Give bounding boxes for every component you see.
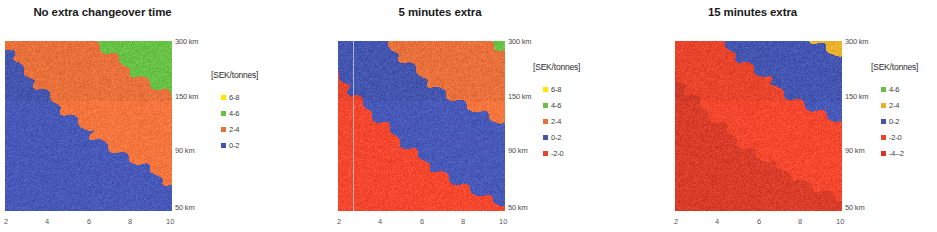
y-tick-150km: 150 km	[175, 92, 198, 101]
x-tick-10: 10	[499, 217, 507, 226]
legend-swatch-icon	[881, 119, 886, 124]
legend-label: 0-2	[229, 141, 239, 150]
legend-label: 6-8	[229, 93, 239, 102]
panel-title: 5 minutes extra	[320, 6, 560, 18]
legend-label: 6-8	[551, 85, 561, 94]
x-tick-10: 10	[166, 217, 174, 226]
legend-item[interactable]: 6-8	[543, 81, 580, 97]
panel-5-minutes-extra: 5 minutes extra 300 km 150 km 90 km 50 k…	[320, 0, 640, 232]
legend-swatch-icon	[221, 95, 226, 100]
heatmap-plot-area	[675, 41, 842, 211]
legend: [SEK/tonnes] 6-8 4-6 2-4 0-2 -2-0	[533, 62, 580, 161]
y-tick-50km: 50 km	[845, 203, 864, 212]
legend-swatch-icon	[881, 103, 886, 108]
legend-item[interactable]: 2-4	[881, 97, 918, 113]
heatmap-plot-area	[338, 41, 505, 211]
legend-swatch-icon	[543, 151, 548, 156]
legend-swatch-icon	[543, 135, 548, 140]
heatmap-canvas	[675, 41, 842, 211]
x-tick-6: 6	[420, 217, 424, 226]
legend-label: 4-6	[889, 85, 899, 94]
x-tick-6: 6	[87, 217, 91, 226]
legend-label: 2-4	[229, 125, 239, 134]
x-tick-6: 6	[757, 217, 761, 226]
heatmap-plot-area	[5, 41, 172, 211]
legend-swatch-icon	[881, 151, 886, 156]
legend-label: -2-0	[889, 133, 902, 142]
legend-label: -4--2	[889, 149, 904, 158]
panel-title: No extra changeover time	[0, 6, 205, 18]
y-tick-50km: 50 km	[508, 203, 527, 212]
x-tick-4: 4	[715, 217, 719, 226]
legend-item[interactable]: 0-2	[221, 137, 258, 153]
x-tick-2: 2	[4, 217, 8, 226]
legend: [SEK/tonnes] 4-6 2-4 0-2 -2-0 -4--2	[871, 62, 918, 161]
legend-label: 4-6	[551, 101, 561, 110]
legend-item[interactable]: 0-2	[881, 113, 918, 129]
y-tick-300km: 300 km	[845, 37, 868, 46]
y-tick-90km: 90 km	[508, 146, 527, 155]
legend: [SEK/tonnes] 6-8 4-6 2-4 0-2	[211, 70, 258, 153]
y-tick-90km: 90 km	[175, 146, 194, 155]
legend-item[interactable]: -2-0	[543, 145, 580, 161]
legend-label: 4-6	[229, 109, 239, 118]
legend-title: [SEK/tonnes]	[871, 62, 918, 72]
legend-item[interactable]: 2-4	[221, 121, 258, 137]
panel-no-extra-changeover-time: No extra changeover time 300 km 150 km 9…	[0, 0, 320, 232]
legend-item[interactable]: -4--2	[881, 145, 918, 161]
x-tick-8: 8	[798, 217, 802, 226]
y-tick-300km: 300 km	[508, 37, 531, 46]
y-tick-150km: 150 km	[845, 92, 868, 101]
legend-item[interactable]: 4-6	[221, 105, 258, 121]
figure-container: No extra changeover time 300 km 150 km 9…	[0, 0, 937, 232]
x-tick-4: 4	[45, 217, 49, 226]
legend-item[interactable]: 6-8	[221, 89, 258, 105]
legend-item[interactable]: 2-4	[543, 113, 580, 129]
legend-title: [SEK/tonnes]	[211, 70, 258, 80]
legend-swatch-icon	[543, 119, 548, 124]
legend-label: 0-2	[889, 117, 899, 126]
legend-swatch-icon	[221, 127, 226, 132]
legend-swatch-icon	[543, 103, 548, 108]
y-tick-300km: 300 km	[175, 37, 198, 46]
legend-item[interactable]: 0-2	[543, 129, 580, 145]
legend-item[interactable]: 4-6	[543, 97, 580, 113]
legend-swatch-icon	[881, 135, 886, 140]
legend-label: -2-0	[551, 149, 564, 158]
legend-label: 2-4	[551, 117, 561, 126]
legend-label: 2-4	[889, 101, 899, 110]
legend-title: [SEK/tonnes]	[533, 62, 580, 72]
x-tick-8: 8	[128, 217, 132, 226]
heatmap-canvas	[338, 41, 505, 211]
legend-swatch-icon	[221, 111, 226, 116]
x-tick-10: 10	[836, 217, 844, 226]
panel-15-minutes-extra: 15 minutes extra 300 km 150 km 90 km 50 …	[640, 0, 937, 232]
legend-swatch-icon	[881, 87, 886, 92]
legend-item[interactable]: 4-6	[881, 81, 918, 97]
panel-title: 15 minutes extra	[640, 6, 865, 18]
y-tick-50km: 50 km	[175, 203, 194, 212]
x-tick-8: 8	[461, 217, 465, 226]
heatmap-canvas	[5, 41, 172, 211]
y-tick-150km: 150 km	[508, 92, 531, 101]
legend-swatch-icon	[543, 87, 548, 92]
x-tick-2: 2	[674, 217, 678, 226]
x-tick-2: 2	[337, 217, 341, 226]
y-tick-90km: 90 km	[845, 146, 864, 155]
x-tick-4: 4	[378, 217, 382, 226]
legend-label: 0-2	[551, 133, 561, 142]
legend-swatch-icon	[221, 143, 226, 148]
legend-item[interactable]: -2-0	[881, 129, 918, 145]
